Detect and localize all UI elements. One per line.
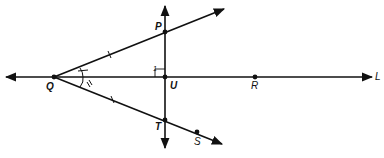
angle-tick-lower [87,82,90,87]
angle-tick-lower2 [89,80,92,85]
point-u [163,75,168,80]
point-t [163,118,168,123]
label-l: L [375,71,381,82]
label-angle-1: 1 [153,65,157,72]
angle-arc-lower [80,77,83,87]
point-p [163,30,168,35]
angle-tick-upper [78,70,88,71]
label-q: Q [46,81,54,92]
angle-arc-upper [80,68,83,77]
point-q [52,75,57,80]
ray-qp [54,9,224,77]
label-p: P [155,21,162,32]
label-t: T [155,121,162,132]
point-s [195,130,200,135]
label-s: S [194,136,201,147]
label-r: R [251,80,258,91]
point-r [253,75,258,80]
geometry-diagram: Q U P T R S L 1 [0,0,384,158]
label-u: U [170,80,178,91]
